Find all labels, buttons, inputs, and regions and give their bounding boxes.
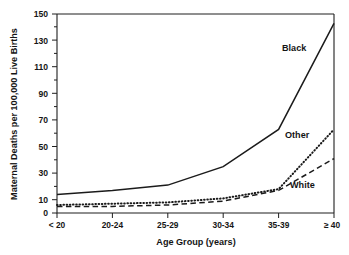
- series-label-other: Other: [285, 130, 310, 140]
- y-tick-label: 150: [34, 9, 49, 19]
- y-tick-label: 70: [38, 115, 48, 125]
- series-line-other: [57, 129, 334, 205]
- y-tick-label: 10: [38, 195, 48, 205]
- y-axis-title: Maternal Deaths per 100,000 Live Births: [9, 28, 19, 200]
- y-tick-label: 30: [38, 168, 48, 178]
- y-tick-label: 90: [38, 89, 48, 99]
- x-tick-label: 25-29: [157, 220, 179, 230]
- line-chart: 0 10 30 50 70 90 110 130 150 < 20 20-24 …: [0, 0, 349, 255]
- x-tick-label: 35-39: [268, 220, 290, 230]
- y-tick-label: 110: [34, 62, 48, 72]
- y-tick-label: 0: [43, 208, 48, 218]
- y-tick-label: 130: [34, 36, 49, 46]
- series-label-white: White: [290, 180, 315, 190]
- x-axis-category-labels: < 20 20-24 25-29 30-34 35-39 ≥ 40: [49, 220, 341, 230]
- x-tick-label: 30-34: [212, 220, 234, 230]
- chart-figure: 0 10 30 50 70 90 110 130 150 < 20 20-24 …: [0, 0, 349, 255]
- y-axis-ticks: [52, 14, 57, 213]
- y-axis-tick-labels: 0 10 30 50 70 90 110 130 150: [34, 9, 49, 218]
- series-label-black: Black: [282, 43, 307, 53]
- y-tick-label: 50: [38, 142, 48, 152]
- x-tick-label: < 20: [49, 220, 66, 230]
- x-axis-title: Age Group (years): [156, 237, 235, 247]
- x-tick-label: 20-24: [102, 220, 124, 230]
- x-axis-ticks: [57, 213, 334, 218]
- x-tick-label: ≥ 40: [324, 220, 341, 230]
